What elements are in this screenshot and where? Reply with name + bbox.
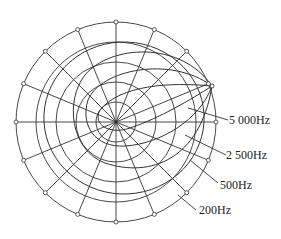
marker-dot: [152, 28, 156, 32]
marker-dot: [114, 20, 118, 24]
marker-dot: [76, 28, 80, 32]
marker-dot: [43, 191, 47, 195]
response-curves: [44, 42, 212, 194]
label-200hz: 200Hz: [199, 204, 231, 216]
radial-line: [45, 51, 116, 122]
marker-dot: [206, 158, 210, 162]
marker-dot: [22, 82, 26, 86]
marker-dot: [152, 212, 156, 216]
label-2500hz: 2 500Hz: [226, 149, 267, 161]
label-500hz: 500Hz: [220, 179, 252, 191]
leader-2500: [185, 135, 226, 155]
marker-dot: [22, 158, 26, 162]
leader-200: [178, 195, 196, 210]
marker-dot: [43, 49, 47, 53]
label-5000hz: 5 000Hz: [229, 114, 270, 126]
curve-200hz: [44, 42, 204, 194]
marker-dot: [114, 220, 118, 224]
marker-dot: [210, 84, 214, 88]
marker-dot: [185, 191, 189, 195]
marker-dot: [76, 212, 80, 216]
marker-dot: [214, 120, 218, 124]
leader-500: [190, 160, 218, 183]
marker-dot: [14, 120, 18, 124]
curve-2500hz: [86, 69, 212, 146]
marker-dot: [185, 49, 189, 53]
radial-line: [116, 122, 187, 193]
